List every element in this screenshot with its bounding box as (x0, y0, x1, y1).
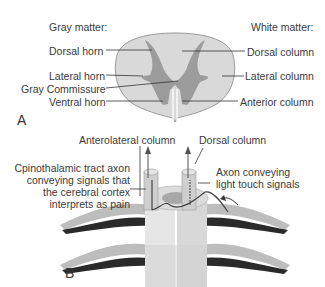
panel-letter-a: A (17, 112, 26, 128)
label-line: Axon conveying (216, 166, 299, 178)
label-light-touch-axon: Axon conveying light touch signals (216, 166, 299, 190)
label-gray-commissure: Gray Commissure (21, 83, 106, 95)
label-dorsal-column-b: Dorsal column (199, 134, 266, 146)
label-dorsal-column: Dorsal column (247, 46, 314, 58)
label-lateral-column: Lateral column (245, 70, 314, 82)
cross-section (106, 33, 245, 122)
white-matter-heading: White matter: (251, 21, 313, 33)
label-line: the cerebral cortex (14, 186, 130, 198)
label-ventral-horn: Ventral horn (49, 96, 106, 108)
label-line: light touch signals (216, 178, 299, 190)
label-dorsal-horn: Dorsal horn (49, 45, 103, 57)
panel-letter-b: B (65, 265, 74, 281)
label-line: interprets as pain (14, 198, 130, 210)
label-anterolateral-column: Anterolateral column (79, 134, 175, 146)
gray-matter-heading: Gray matter: (49, 21, 107, 33)
label-spinothalamic-axon: Cpinothalamic tract axon conveying signa… (14, 162, 130, 210)
label-line: conveying signals that (14, 174, 130, 186)
label-anterior-column: Anterior column (240, 96, 314, 108)
label-lateral-horn: Lateral horn (49, 70, 105, 82)
label-line: Cpinothalamic tract axon (14, 162, 130, 174)
